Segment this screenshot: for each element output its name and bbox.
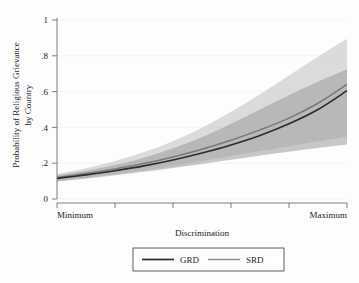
x-axis-title: Discrimination xyxy=(175,228,229,238)
chart-figure: 1 .8 .6 .4 .2 0 Probability of Religious… xyxy=(0,0,359,283)
y-tick-label-0: 0 xyxy=(44,194,49,204)
y-tick-label-04: .4 xyxy=(41,123,48,133)
y-tick-label-06: .6 xyxy=(41,87,48,97)
x-tick-label-minimum: Minimum xyxy=(57,210,93,220)
x-tick-label-maximum: Maximum xyxy=(310,210,348,220)
y-tick-label-1: 1 xyxy=(44,15,49,25)
y-tick-label-02: .2 xyxy=(41,158,48,168)
y-axis: 1 .8 .6 .4 .2 0 Probability of Religious… xyxy=(11,15,57,204)
chart-canvas: 1 .8 .6 .4 .2 0 Probability of Religious… xyxy=(0,0,359,283)
y-axis-title-line2: by Country xyxy=(23,84,33,125)
confidence-bands xyxy=(57,39,347,182)
y-tick-label-08: .8 xyxy=(41,51,48,61)
legend-label-srd: SRD xyxy=(246,255,264,265)
legend-label-grd: GRD xyxy=(180,255,200,265)
x-axis: Minimum Maximum Discrimination xyxy=(57,203,347,238)
y-axis-title-line1: Probability of Religious Grievance xyxy=(11,42,21,168)
chart-legend: GRD SRD xyxy=(133,248,284,271)
